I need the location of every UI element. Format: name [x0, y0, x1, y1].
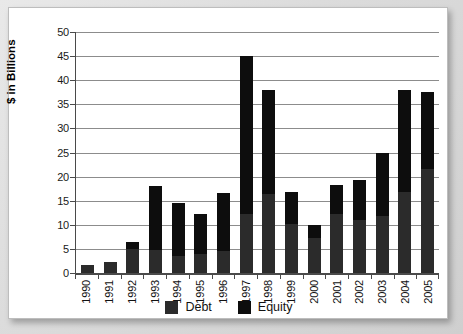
x-tick-mark-end	[438, 273, 439, 279]
stacked-bar[interactable]	[194, 214, 207, 273]
bar-segment-debt[interactable]	[376, 216, 389, 273]
x-tick-mark	[325, 273, 326, 279]
x-tick-slot	[75, 273, 98, 279]
bar-segment-debt[interactable]	[398, 192, 411, 273]
bar-segment-equity[interactable]	[240, 56, 253, 214]
bar-segment-debt[interactable]	[421, 169, 434, 273]
x-tick-mark	[234, 273, 235, 279]
y-tick-label: 50	[57, 26, 69, 38]
stacked-bar[interactable]	[308, 225, 321, 273]
stacked-bar[interactable]	[353, 180, 366, 273]
x-tick-mark	[280, 273, 281, 279]
x-tick-mark	[212, 273, 213, 279]
bar-slot	[258, 32, 281, 273]
bar-slot	[371, 32, 394, 273]
x-tick-slot	[416, 273, 439, 279]
y-tick-label: 45	[57, 50, 69, 62]
bar-segment-equity[interactable]	[149, 186, 162, 250]
x-tick-mark	[303, 273, 304, 279]
legend-label-debt: Debt	[185, 300, 211, 314]
y-tick-label: 25	[57, 147, 69, 159]
bar-segment-debt[interactable]	[126, 249, 139, 273]
bar-slot	[280, 32, 303, 273]
bar-segment-equity[interactable]	[421, 92, 434, 169]
bar-segment-equity[interactable]	[194, 214, 207, 254]
x-tick-mark	[348, 273, 349, 279]
stacked-bar[interactable]	[104, 262, 117, 273]
x-tick-slot	[394, 273, 417, 279]
legend-swatch-debt-icon	[165, 301, 178, 314]
bar-segment-debt[interactable]	[285, 224, 298, 273]
x-tick-slot	[234, 273, 257, 279]
bar-segment-debt[interactable]	[240, 214, 253, 273]
stacked-bar[interactable]	[262, 90, 275, 273]
bar-segment-debt[interactable]	[217, 251, 230, 273]
bar-segment-debt[interactable]	[353, 220, 366, 273]
stacked-bar[interactable]	[240, 56, 253, 273]
x-tick-mark	[394, 273, 395, 279]
bar-slot	[212, 32, 235, 273]
x-tick-mark	[121, 273, 122, 279]
bar-segment-equity[interactable]	[217, 193, 230, 251]
stacked-bar[interactable]	[376, 153, 389, 273]
x-tick-mark	[189, 273, 190, 279]
x-tick-slot	[348, 273, 371, 279]
bar-segment-equity[interactable]	[172, 203, 185, 256]
x-tick-mark	[257, 273, 258, 279]
bar-segment-equity[interactable]	[398, 90, 411, 192]
bar-segment-equity[interactable]	[126, 242, 139, 250]
bar-segment-debt[interactable]	[194, 254, 207, 273]
x-tick-mark	[166, 273, 167, 279]
x-tick-slot	[143, 273, 166, 279]
plot-area	[75, 32, 439, 273]
stacked-bar[interactable]	[421, 92, 434, 273]
x-tick-slot	[121, 273, 144, 279]
stacked-bar[interactable]	[217, 193, 230, 273]
bar-segment-equity[interactable]	[353, 180, 366, 220]
bar-segment-debt[interactable]	[104, 262, 117, 273]
legend-item-debt[interactable]: Debt	[165, 300, 211, 314]
bar-slot	[76, 32, 99, 273]
bar-slot	[99, 32, 122, 273]
x-tick-mark	[416, 273, 417, 279]
x-tick-slot	[98, 273, 121, 279]
y-tick-label: 30	[57, 122, 69, 134]
bar-segment-debt[interactable]	[262, 194, 275, 273]
bar-segment-equity[interactable]	[285, 192, 298, 224]
y-tick-label: 40	[57, 74, 69, 86]
bar-segment-equity[interactable]	[330, 185, 343, 214]
x-tick-slot	[189, 273, 212, 279]
y-tick-label: 5	[63, 243, 69, 255]
bar-slot	[121, 32, 144, 273]
stacked-bar[interactable]	[285, 192, 298, 273]
stacked-bar[interactable]	[398, 90, 411, 273]
bar-slot	[144, 32, 167, 273]
bar-segment-equity[interactable]	[376, 153, 389, 217]
x-tick-mark	[143, 273, 144, 279]
stacked-bar[interactable]	[330, 185, 343, 273]
x-tick-mark	[371, 273, 372, 279]
y-tick-label: 15	[57, 195, 69, 207]
bar-slot	[326, 32, 349, 273]
bar-slot	[394, 32, 417, 273]
bar-segment-debt[interactable]	[330, 214, 343, 273]
bar-segment-debt[interactable]	[149, 250, 162, 273]
page-background: $ in Billions 50454035302520151050 19901…	[0, 0, 463, 334]
stacked-bar[interactable]	[126, 242, 139, 273]
bar-slot	[189, 32, 212, 273]
y-tick-label: 10	[57, 219, 69, 231]
y-axis-title: $ in Billions	[5, 0, 17, 104]
stacked-bar[interactable]	[149, 186, 162, 273]
bar-segment-equity[interactable]	[308, 225, 321, 238]
bar-segment-debt[interactable]	[81, 265, 94, 273]
bar-slot	[167, 32, 190, 273]
stacked-bar[interactable]	[81, 265, 94, 273]
bar-segment-debt[interactable]	[172, 256, 185, 273]
legend-item-equity[interactable]: Equity	[238, 300, 293, 314]
chart-card: $ in Billions 50454035302520151050 19901…	[8, 7, 448, 319]
bar-segment-debt[interactable]	[308, 238, 321, 273]
bar-segment-equity[interactable]	[262, 90, 275, 194]
x-tick-slot	[303, 273, 326, 279]
stacked-bar[interactable]	[172, 203, 185, 273]
y-tick-label: 0	[63, 267, 69, 279]
